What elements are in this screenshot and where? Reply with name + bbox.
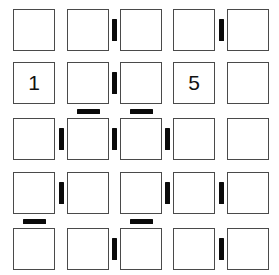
puzzle-cell-value: 5 [188, 72, 200, 93]
vertical-separator-vbar-r1-c4 [219, 19, 224, 41]
puzzle-cell-r1c1[interactable] [13, 9, 55, 51]
puzzle-cell-r4c5[interactable] [227, 172, 269, 214]
puzzle-cell-r5c3[interactable] [120, 228, 162, 270]
puzzle-cell-r5c4[interactable] [173, 228, 215, 270]
puzzle-cell-r1c4[interactable] [173, 9, 215, 51]
puzzle-cell-r1c5[interactable] [227, 9, 269, 51]
vertical-separator-vbar-r1-c2 [112, 19, 117, 41]
puzzle-cell-r2c2[interactable] [67, 62, 109, 104]
vertical-separator-vbar-r3-c2 [112, 128, 117, 150]
puzzle-cell-r1c2[interactable] [67, 9, 109, 51]
puzzle-cell-r2c4[interactable]: 5 [173, 62, 215, 104]
vertical-separator-vbar-r2-c2 [112, 72, 117, 94]
vertical-separator-vbar-r4-c4 [219, 182, 224, 204]
vertical-separator-vbar-r3-c3 [165, 128, 170, 150]
vertical-separator-vbar-r4-c3 [165, 182, 170, 204]
puzzle-cell-r3c4[interactable] [173, 118, 215, 160]
puzzle-cell-r4c4[interactable] [173, 172, 215, 214]
puzzle-cell-r2c3[interactable] [120, 62, 162, 104]
vertical-separator-vbar-r3-c1 [59, 128, 64, 150]
puzzle-cell-r4c2[interactable] [67, 172, 109, 214]
puzzle-cell-r4c3[interactable] [120, 172, 162, 214]
puzzle-grid-container: 15 [0, 0, 279, 275]
puzzle-cell-r4c1[interactable] [13, 172, 55, 214]
horizontal-separator-hbar-r2-c3 [130, 109, 153, 114]
puzzle-cell-r3c2[interactable] [67, 118, 109, 160]
puzzle-cell-r5c2[interactable] [67, 228, 109, 270]
horizontal-separator-hbar-r4-c1 [23, 219, 46, 224]
horizontal-separator-hbar-r2-c2 [77, 109, 100, 114]
puzzle-cell-r3c3[interactable] [120, 118, 162, 160]
puzzle-cell-r1c3[interactable] [120, 9, 162, 51]
puzzle-cell-r5c5[interactable] [227, 228, 269, 270]
puzzle-cell-r3c5[interactable] [227, 118, 269, 160]
puzzle-cell-r5c1[interactable] [13, 228, 55, 270]
puzzle-cell-r2c5[interactable] [227, 62, 269, 104]
vertical-separator-vbar-r5-c4 [219, 238, 224, 260]
puzzle-grid: 15 [0, 0, 279, 275]
puzzle-cell-r3c1[interactable] [13, 118, 55, 160]
horizontal-separator-hbar-r4-c3 [130, 219, 153, 224]
vertical-separator-vbar-r4-c1 [59, 182, 64, 204]
puzzle-cell-value: 1 [28, 72, 40, 93]
vertical-separator-vbar-r5-c2 [112, 238, 117, 260]
puzzle-cell-r2c1[interactable]: 1 [13, 62, 55, 104]
